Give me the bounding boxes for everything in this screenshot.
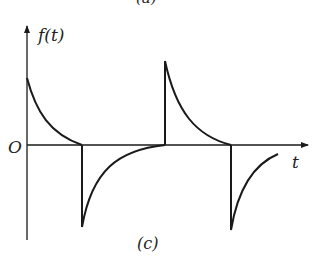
origin-label: O	[8, 139, 22, 156]
negative-recovery-2	[231, 154, 278, 230]
positive-decay-2	[165, 61, 231, 145]
positive-decay-1	[27, 78, 82, 145]
figure-caption: (c)	[137, 236, 158, 252]
negative-recovery-1	[82, 145, 165, 227]
x-axis-label: t	[292, 154, 299, 171]
figure: (a) f(t) O t (c)	[0, 0, 313, 260]
y-axis-label: f(t)	[38, 27, 64, 44]
